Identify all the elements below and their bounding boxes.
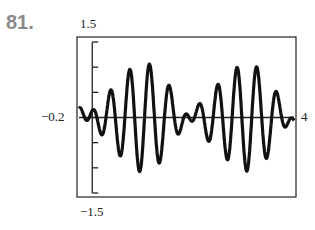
- chart-plot: [0, 0, 315, 230]
